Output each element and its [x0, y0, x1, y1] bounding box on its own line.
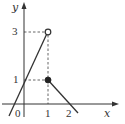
open-endpoint-marker — [45, 29, 51, 35]
y-axis-arrow-icon — [22, 2, 27, 9]
x-tick-1: 1 — [45, 108, 51, 119]
y-axis-label: y — [12, 2, 18, 13]
x-tick-2: 2 — [66, 108, 72, 119]
y-tick-1: 1 — [13, 74, 19, 85]
y-tick-3: 3 — [12, 26, 18, 37]
filled-endpoint-marker — [45, 77, 51, 83]
origin-label: 0 — [15, 108, 21, 119]
x-axis-arrow-icon — [112, 102, 119, 107]
graph-canvas — [0, 0, 125, 124]
x-axis-label: x — [104, 108, 110, 119]
right-piece-line — [48, 80, 78, 113]
piecewise-function-graph: y x 3 1 0 1 2 — [0, 0, 125, 124]
